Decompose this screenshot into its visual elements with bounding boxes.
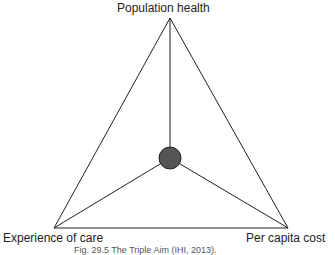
spoke-right — [170, 158, 288, 228]
label-population-health: Population health — [117, 1, 210, 15]
edge-top-left — [54, 18, 170, 228]
edge-top-right — [170, 18, 288, 228]
center-node — [159, 147, 181, 169]
label-per-capita-cost: Per capita cost — [246, 231, 325, 245]
figure-caption: Fig. 29.5 The Triple Aim (IHI, 2013). — [74, 245, 216, 255]
spoke-left — [54, 158, 170, 228]
spokes — [54, 18, 288, 228]
label-experience-of-care: Experience of care — [3, 231, 103, 245]
outer-triangle — [54, 18, 288, 228]
